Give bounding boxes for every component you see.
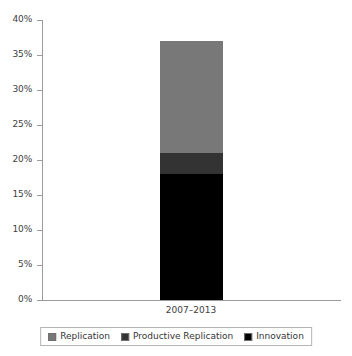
y-axis-tick-label: 15% [13,188,32,200]
legend-item-productive-replication[interactable]: Productive Replication [121,331,233,342]
legend-label: Replication [60,331,110,342]
legend-item-replication[interactable]: Replication [48,331,110,342]
bar-segment-productive-replication[interactable] [160,153,223,174]
legend-item-innovation[interactable]: Innovation [244,331,304,342]
chart-legend: ReplicationProductive ReplicationInnovat… [40,327,312,346]
y-axis-tick-label: 25% [13,118,32,130]
bar-segment-replication[interactable] [160,41,223,153]
y-axis-tick-label: 30% [13,83,32,95]
y-axis-tick-label: 5% [18,258,32,270]
y-axis-tick: 0% [37,300,42,301]
y-axis-tick-label: 20% [13,153,32,165]
legend-swatch-icon [121,333,129,341]
y-axis-tick-label: 0% [18,293,32,305]
plot-area [42,20,340,300]
x-axis-line [42,300,341,301]
legend-swatch-icon [244,333,252,341]
bar-stack-2007-2013[interactable] [160,41,223,300]
stacked-bar-chart: 0%5%10%15%20%25%30%35%40% 2007–2013 Repl… [0,0,352,356]
legend-label: Innovation [256,331,304,342]
legend-swatch-icon [48,333,56,341]
y-axis-tick-label: 40% [13,13,32,25]
y-axis-tick-mark [37,300,42,301]
y-axis-tick-label: 35% [13,48,32,60]
y-axis-tick-label: 10% [13,223,32,235]
legend-label: Productive Replication [133,331,233,342]
bar-segment-innovation[interactable] [160,174,223,300]
x-axis-category-label: 2007–2013 [130,304,252,316]
